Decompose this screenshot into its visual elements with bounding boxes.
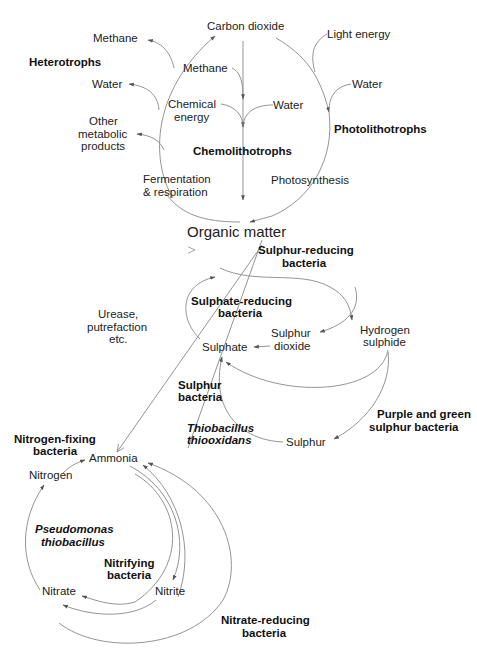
- sulphur-reducing-label-1: Sulphur-reducing: [258, 244, 354, 256]
- methane-out-label: Methane: [93, 32, 138, 44]
- water-chemo-arrow: [243, 105, 273, 125]
- sulphate-reducing-arc: [186, 277, 215, 339]
- chemolithotrophs-label: Chemolithotrophs: [193, 145, 292, 157]
- hydrogen-sulphide-label-2: sulphide: [363, 336, 406, 348]
- urease-label-2: putrefaction: [87, 321, 147, 333]
- chemical-energy-label: Chemical: [168, 98, 216, 110]
- water-photo-label: Water: [352, 78, 382, 90]
- nitrate-reducing-arc: [59, 463, 231, 643]
- sulphate-reducing-label-2: bacteria: [218, 307, 263, 319]
- urease-label-1: Urease,: [98, 308, 138, 320]
- photosynthesis-label: Photosynthesis: [271, 174, 349, 186]
- pseudomonas-label-2: thiobacillus: [41, 536, 105, 548]
- purple-green-label-1: Purple and green: [377, 408, 471, 420]
- sulphur-reducing-label-2: bacteria: [282, 257, 327, 269]
- nitrate-reducing-label-2: bacteria: [242, 627, 287, 639]
- fermentation-label-1: Fermentation: [143, 173, 211, 185]
- water-photo-arrow: [329, 84, 351, 108]
- nitrite-to-nitrate-arc: [63, 600, 156, 614]
- nitrogen-fixing-label-1: Nitrogen-fixing: [14, 433, 96, 445]
- fermentation-label-2: & respiration: [143, 186, 208, 198]
- light-energy-label: Light energy: [327, 28, 391, 40]
- chemical-energy-arrow: [221, 104, 243, 127]
- methane-out-arrow: [148, 40, 174, 68]
- sulphur-bacteria-label-2: bacteria: [178, 391, 223, 403]
- thiobacillus-label-1: Thiobacillus: [187, 422, 254, 434]
- sulphur-dioxide-label-1: Sulphur: [271, 327, 311, 339]
- light-energy-arrow: [313, 34, 327, 72]
- carbon-dioxide-label: Carbon dioxide: [207, 20, 284, 32]
- pseudomonas-label-1: Pseudomonas: [35, 523, 114, 535]
- water-chemo-label: Water: [273, 99, 303, 111]
- sulphur-bacteria-label-1: Sulphur: [178, 379, 222, 391]
- nitrogen-fixing-label-2: bacteria: [33, 445, 78, 457]
- nitrate-label: Nitrate: [42, 585, 76, 597]
- organic-matter-label: Organic matter: [187, 223, 286, 240]
- sulphate-reducing-label-1: Sulphate-reducing: [191, 295, 292, 307]
- purple-green-label-2: sulphur bacteria: [369, 421, 459, 433]
- nitrogen-label: Nitrogen: [29, 469, 72, 481]
- sulphur-dioxide-to-sulphate: [254, 346, 270, 347]
- ammonia-label: Ammonia: [89, 452, 138, 464]
- nitrogen-cycle: [25, 460, 231, 643]
- other-products-label-1: Other: [89, 115, 118, 127]
- hydrogen-sulphide-label-1: Hydrogen: [360, 324, 410, 336]
- nitrate-reducing-label-1: Nitrate-reducing: [221, 614, 310, 626]
- to-sulphur-dioxide-arc: [320, 287, 357, 332]
- sulphate-label: Sulphate: [202, 341, 247, 353]
- other-products-label-3: products: [81, 140, 125, 152]
- urease-label-3: etc.: [109, 333, 128, 345]
- methane-in-label: Methane: [183, 62, 228, 74]
- methane-in-arrow: [232, 68, 243, 99]
- h2s-to-sulphate-arc: [226, 350, 388, 387]
- chemical-energy-label-2: energy: [174, 111, 209, 123]
- photolithotroph-arc-lower: [250, 112, 330, 222]
- other-products-label-2: metabolic: [78, 128, 127, 140]
- nitrifying-label-2: bacteria: [107, 569, 152, 581]
- thiobacillus-label-2: thiooxidans: [187, 434, 252, 446]
- nitrifying-label-1: Nitrifying: [104, 557, 154, 569]
- nitrite-label: Nitrite: [155, 585, 185, 597]
- water-out-label: Water: [92, 78, 122, 90]
- water-out-arrow: [129, 84, 159, 110]
- sulphur-label: Sulphur: [286, 436, 326, 448]
- heterotrophs-label: Heterotrophs: [29, 56, 101, 68]
- microbial-nutrient-cycles-diagram: Carbon dioxide Light energy Methane Hete…: [0, 0, 477, 662]
- sulphur-dioxide-label-2: dioxide: [274, 340, 310, 352]
- photolithotrophs-label: Photolithotrophs: [334, 123, 427, 135]
